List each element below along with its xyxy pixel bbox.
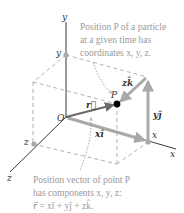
svg-text:Position P of a particle: Position P of a particle [80, 22, 166, 32]
point-p-label: P [110, 90, 118, 100]
svg-text:coordinates x, y, z.: coordinates x, y, z. [80, 48, 151, 58]
y-component-label: yĵ [152, 110, 162, 120]
y-marker-label: y [55, 48, 62, 58]
svg-text:has components x, y, z:: has components x, y, z: [33, 188, 122, 198]
position-vector-diagram: y x z O y x z P r⃗ xî yĵ zk̂ Position P … [0, 0, 184, 213]
z-axis [10, 117, 66, 172]
z-component-label: zk̂ [121, 76, 133, 88]
bottom-leader-line [80, 118, 91, 170]
x-marker-label: x [152, 130, 157, 140]
top-annotation: Position P of a particle at a given time… [80, 22, 166, 58]
bottom-annotation: Position vector of point P has component… [33, 175, 130, 211]
r-vector-label: r⃗ [86, 100, 96, 110]
y-axis-label: y [61, 12, 68, 22]
x-marker [145, 139, 150, 144]
x-axis-label: x [170, 149, 175, 159]
x-component-vector [68, 118, 144, 140]
svg-text:r⃗ = xî + yĵ + zk̂.: r⃗ = xî + yĵ + zk̂. [33, 199, 93, 211]
z-marker [31, 141, 36, 146]
svg-text:at a given time has: at a given time has [80, 35, 152, 45]
svg-text:Position vector of point P: Position vector of point P [33, 175, 130, 185]
z-axis-label: z [6, 173, 12, 183]
z-marker-label: z [23, 137, 29, 147]
origin-label: O [57, 113, 65, 123]
x-component-label: xî [94, 129, 104, 139]
point-p [114, 101, 121, 108]
y-marker [63, 52, 68, 57]
